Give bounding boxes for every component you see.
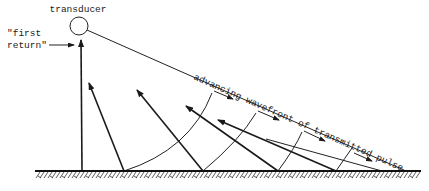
transducer-icon — [70, 17, 88, 35]
first-return-label-line1: "first — [7, 28, 41, 39]
backscatter-ray-1 — [89, 83, 124, 171]
ground-surface — [35, 171, 421, 178]
vertical-return-ray — [81, 40, 82, 171]
wavefront-arc-1 — [124, 93, 212, 171]
seabed-sonar-diagram: transducer "first return" advancing wave… — [0, 0, 429, 191]
backscatter-ray-2 — [137, 90, 203, 171]
transducer-label: transducer — [49, 4, 106, 15]
wavefront-arc-2 — [203, 113, 256, 171]
backscatter-ray-3 — [186, 106, 278, 171]
wavefront-arc-4 — [336, 148, 352, 171]
first-return-label-line2: return" — [7, 40, 47, 51]
